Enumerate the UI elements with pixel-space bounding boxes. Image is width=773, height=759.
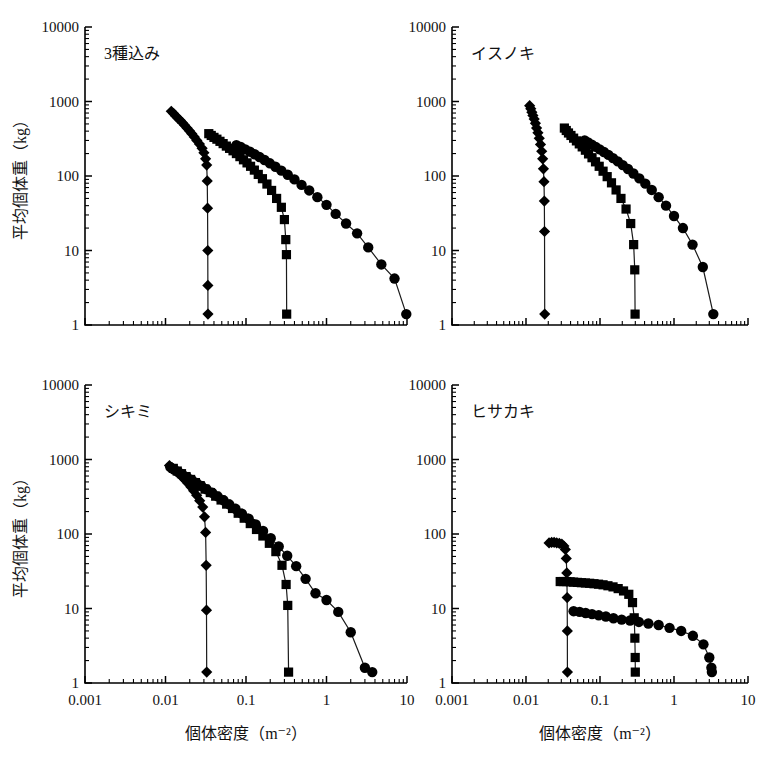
data-point-square [630,310,639,319]
axis-spines [85,27,407,325]
x-tick-label: 0.01 [152,692,178,708]
y-tick-label: 1000 [416,452,446,468]
x-tick-label: 1 [670,692,678,708]
data-point-circle [653,620,663,630]
data-point-square [631,668,640,677]
data-point-circle [274,541,284,551]
y-axis-title: 平均個体重（kg） [12,112,30,240]
panel-top-right: 110100100010000イスノキ [409,19,749,333]
panel-title-bottom-right: ヒサカキ [471,403,535,420]
data-point-square [282,310,291,319]
data-point-diamond [202,245,213,256]
data-point-diamond [539,226,550,237]
panel-title-bottom-left: シキミ [104,403,152,420]
series-line-square [173,468,288,672]
data-point-square [281,235,290,244]
data-point-diamond [201,560,212,571]
x-tick-label: 0.01 [513,692,539,708]
data-point-square [631,653,640,662]
data-point-diamond [562,592,573,603]
panel-title-top-left: 3種込み [104,45,160,62]
y-tick-label: 10000 [42,19,80,35]
data-point-circle [688,631,698,641]
y-tick-label: 10 [431,243,446,259]
data-point-square [267,186,276,195]
data-point-circle [401,309,411,319]
data-point-circle [698,639,708,649]
data-point-diamond [202,203,213,214]
x-tick-label: 0.001 [68,692,102,708]
x-tick-label: 0.1 [237,692,256,708]
data-point-square [624,590,633,599]
data-point-diamond [202,175,213,186]
data-point-circle [321,200,331,210]
y-tick-label: 10 [64,243,79,259]
series-diamond [543,537,573,678]
data-point-square [629,240,638,249]
data-point-circle [282,551,292,561]
data-point-diamond [199,511,210,522]
data-point-circle [330,209,340,219]
data-point-circle [634,617,644,627]
series-line-square [564,128,635,314]
y-tick-label: 1 [72,675,80,691]
data-point-circle [312,192,322,202]
data-point-circle [676,626,686,636]
data-point-circle [346,627,356,637]
data-point-circle [708,309,718,319]
y-tick-label: 10000 [409,19,447,35]
data-point-diamond [201,667,212,678]
axis-spines [85,385,407,683]
data-point-diamond [538,163,549,174]
y-tick-label: 1 [439,317,447,333]
panel-bottom-right: 1101001000100000.0010.010.1110ヒサカキ [409,377,756,708]
data-point-circle [367,667,377,677]
data-point-circle [389,273,399,283]
data-point-diamond [562,667,573,678]
data-point-circle [678,223,688,233]
axis-spines [452,27,748,325]
data-point-diamond [538,176,549,187]
x-tick-label: 10 [400,692,415,708]
data-point-square [630,265,639,274]
data-point-square [282,580,291,589]
data-point-diamond [200,527,211,538]
panel-top-left: 1101001000100003種込み [42,19,412,333]
data-point-circle [341,218,351,228]
data-point-circle [304,185,314,195]
series-circle [568,606,717,677]
data-point-circle [653,192,663,202]
panel-bottom-left: 1101001000100000.0010.010.1110シキミ [42,377,415,708]
data-point-circle [258,526,268,536]
data-point-circle [333,607,343,617]
y-axis-title: 平均個体重（kg） [12,470,30,598]
data-point-circle [321,595,331,605]
data-point-square [284,668,293,677]
data-point-circle [266,533,276,543]
y-tick-label: 10000 [42,377,80,393]
data-point-diamond [537,153,548,164]
y-tick-label: 100 [57,526,80,542]
data-point-square [272,194,281,203]
y-tick-label: 10 [64,601,79,617]
data-point-circle [376,259,386,269]
data-point-circle [664,623,674,633]
data-point-square [611,185,620,194]
data-point-square [616,194,625,203]
x-tick-label: 1 [323,692,331,708]
data-point-square [626,219,635,228]
y-tick-label: 1000 [416,94,446,110]
x-tick-label: 0.1 [591,692,610,708]
data-point-circle [669,211,679,221]
data-point-circle [363,242,373,252]
data-point-circle [661,200,671,210]
y-tick-label: 100 [424,168,447,184]
x-tick-label: 10 [741,692,756,708]
data-point-circle [643,618,653,628]
data-point-circle [687,239,697,249]
x-axis-title: 個体密度（m⁻²） [539,725,661,742]
data-point-square [630,634,639,643]
data-point-diamond [562,625,573,636]
data-point-circle [704,652,714,662]
x-axis-title: 個体密度（m⁻²） [185,725,307,742]
